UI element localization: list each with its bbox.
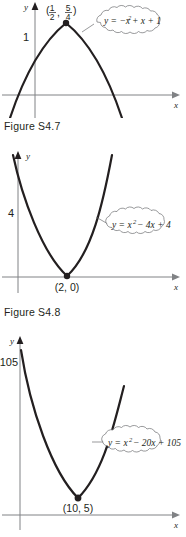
figure-s4-8-plot: x y 4 (2, 0) y = x 2 − 4x + 4 xyxy=(0,145,186,293)
x-axis-arrow-3 xyxy=(172,512,180,519)
figure-s4-7-plot: x y 1 ( 1 2 , 5 4 ) y = −x 2 + x + 1 xyxy=(0,0,186,118)
parabola-curve-2 xyxy=(13,155,112,276)
y-axis-arrow-1 xyxy=(32,2,39,10)
y-tick-label-3: 105 xyxy=(0,356,18,368)
parabola-chart-2: x y 4 (2, 0) y = x 2 − 4x + 4 xyxy=(0,145,186,293)
y-axis-arrow-3 xyxy=(17,336,24,344)
parabola-curve-3 xyxy=(21,350,124,498)
equation-lhs-3: y = x xyxy=(107,438,128,448)
figure-caption-s4-7: Figure S4.7 xyxy=(4,120,60,132)
x-axis-arrow-1 xyxy=(172,92,180,99)
vertex-x-denominator-1: 2 xyxy=(50,12,55,22)
vertex-label-3: (10, 5) xyxy=(63,502,93,514)
vertex-label-1: ( 1 2 , 5 4 ) xyxy=(46,3,77,22)
equation-callout-1: y = −x 2 + x + 1 xyxy=(97,5,161,33)
parabola-chart-1: x y 1 ( 1 2 , 5 4 ) y = −x 2 + x + 1 xyxy=(0,0,186,118)
vertex-label-comma-1: , xyxy=(57,6,60,18)
y-tick-label-1: 1 xyxy=(23,31,29,43)
equation-rhs-3: − 20x + 105 xyxy=(133,438,181,448)
equation-rhs-2: − 4x + 4 xyxy=(137,220,171,230)
equation-callout-3: y = x 2 − 20x + 105 xyxy=(102,425,181,452)
callout-leader-1 xyxy=(82,24,94,32)
vertex-y-denominator-1: 4 xyxy=(66,12,71,22)
equation-lhs-1: y = −x xyxy=(103,16,131,26)
x-axis-arrow-2 xyxy=(172,274,180,281)
x-axis-label-2: x xyxy=(173,282,178,292)
vertex-label-2: (2, 0) xyxy=(55,281,80,293)
vertex-label-close-paren-1: ) xyxy=(73,4,77,16)
figure-caption-s4-8: Figure S4.8 xyxy=(4,306,60,318)
vertex-point-3 xyxy=(75,495,82,502)
y-axis-label-1: y xyxy=(23,2,28,12)
equation-rhs-1: + x + 1 xyxy=(132,16,161,26)
equation-callout-2: y = x 2 − 4x + 4 xyxy=(106,207,171,234)
vertex-point-2 xyxy=(64,273,70,279)
y-axis-label-2: y xyxy=(25,151,30,161)
x-axis-label-1: x xyxy=(173,100,178,110)
y-tick-label-2: 4 xyxy=(8,207,14,219)
third-parabola-plot: x y 105 (10, 5) y = x 2 − 20x + 105 xyxy=(0,330,186,530)
equation-lhs-2: y = x xyxy=(111,220,132,230)
y-axis-arrow-2 xyxy=(15,151,22,159)
y-axis-label-3: y xyxy=(9,336,14,346)
parabola-chart-3: x y 105 (10, 5) y = x 2 − 20x + 105 xyxy=(0,330,186,530)
x-axis-label-3: x xyxy=(173,520,178,530)
